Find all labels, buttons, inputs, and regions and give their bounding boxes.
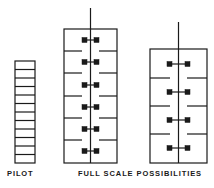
marker-node-right [94,149,99,154]
layout-diagram-canvas [0,0,214,188]
marker-node-left [82,127,87,132]
marker-node-right [185,118,190,123]
marker-node-right [185,62,190,67]
marker-node-right [94,83,99,88]
pilot-column [15,61,35,163]
marker-node-left [167,146,172,151]
full-scale-option-b [150,22,207,163]
full-scale-diagrams [64,8,207,163]
marker-node-left [167,62,172,67]
full-scale-possibilities-label: FULL SCALE POSSIBILITIES [78,169,202,178]
marker-node-right [94,105,99,110]
marker-node-left [167,90,172,95]
marker-node-left [167,118,172,123]
marker-node-right [94,127,99,132]
marker-node-right [94,60,99,65]
marker-node-left [82,38,87,43]
diagram-figure: PILOT FULL SCALE POSSIBILITIES [0,0,214,188]
full-scale-option-a [64,8,117,163]
marker-node-right [185,90,190,95]
pilot-label: PILOT [7,169,34,178]
marker-node-left [82,60,87,65]
marker-node-right [185,146,190,151]
marker-node-left [82,105,87,110]
marker-node-left [82,83,87,88]
marker-node-right [94,38,99,43]
marker-node-left [82,149,87,154]
